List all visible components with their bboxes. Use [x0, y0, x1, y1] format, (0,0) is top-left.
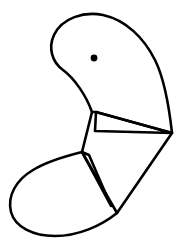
background-rect	[0, 0, 185, 250]
figure-canvas	[0, 0, 185, 250]
eye-dot-icon	[91, 55, 98, 62]
line-drawing-svg	[0, 0, 185, 250]
